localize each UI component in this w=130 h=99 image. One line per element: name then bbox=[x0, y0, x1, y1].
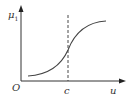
y-axis-arrow-icon bbox=[19, 5, 24, 12]
c-marker-label: c bbox=[64, 86, 70, 96]
y-axis-label: μ1 bbox=[8, 10, 18, 22]
x-axis-label: u bbox=[110, 86, 116, 96]
y-axis-label-subscript: 1 bbox=[15, 15, 19, 22]
x-axis-arrow-icon bbox=[119, 79, 126, 84]
origin-label: O bbox=[12, 83, 20, 93]
membership-curve bbox=[28, 21, 106, 76]
